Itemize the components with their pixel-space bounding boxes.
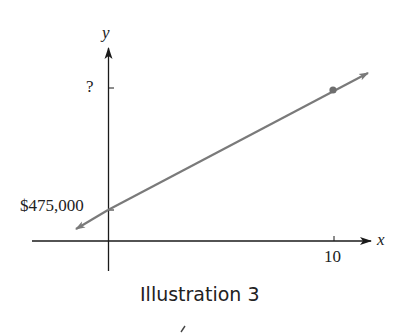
stray-mark: [181, 326, 185, 332]
y-axis-label: y: [102, 23, 110, 43]
data-point-x10: [329, 86, 336, 93]
y-tick-label-unknown: ?: [86, 77, 94, 97]
data-line-forward: [108, 73, 368, 210]
figure: y ? $475,000 10 x Illustration 3: [0, 0, 406, 335]
y-tick-label-intercept: $475,000: [20, 196, 84, 216]
figure-caption: Illustration 3: [140, 283, 260, 305]
x-axis-label: x: [377, 230, 385, 250]
x-tick-label-10: 10: [324, 247, 341, 267]
